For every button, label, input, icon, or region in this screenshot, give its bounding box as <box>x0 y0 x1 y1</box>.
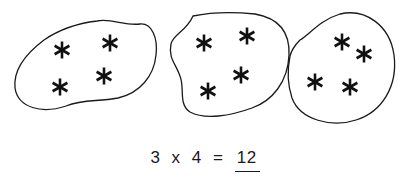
asterisk-icon <box>97 68 112 85</box>
asterisk-icon <box>234 67 249 84</box>
asterisk-icon <box>53 79 68 96</box>
equation-operator: x <box>172 148 181 167</box>
asterisk-icon <box>240 28 255 45</box>
equation: 3 x 4 = 12 <box>0 148 410 172</box>
equation-factor-groups: 3 <box>150 148 160 167</box>
asterisk-icon <box>201 83 216 100</box>
equation-factor-items: 4 <box>192 148 202 167</box>
asterisk-icon <box>308 74 323 91</box>
asterisk-icon <box>197 35 212 52</box>
group-3-outline <box>288 13 395 123</box>
asterisk-icon <box>103 35 118 52</box>
group-2-outline <box>170 13 289 117</box>
equation-answer: 12 <box>235 148 260 172</box>
asterisk-icon <box>357 46 372 63</box>
equation-equals: = <box>213 148 223 167</box>
asterisk-icon <box>343 79 358 96</box>
group-1-outline <box>15 20 157 109</box>
asterisk-icon <box>55 42 70 59</box>
asterisk-icon <box>335 34 350 51</box>
